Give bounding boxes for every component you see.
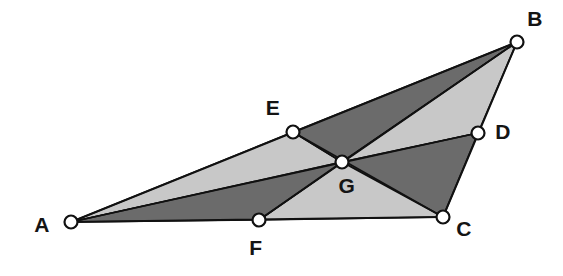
point-marker-a[interactable] (65, 216, 78, 229)
point-label-f: F (249, 237, 262, 258)
point-label-e: E (266, 97, 281, 118)
point-marker-f[interactable] (253, 214, 266, 227)
point-label-a: A (34, 214, 50, 235)
point-marker-e[interactable] (287, 126, 300, 139)
point-label-g: G (339, 175, 356, 196)
point-marker-g[interactable] (336, 156, 349, 169)
point-label-b: B (527, 8, 543, 29)
point-marker-b[interactable] (511, 36, 524, 49)
point-marker-c[interactable] (437, 211, 450, 224)
point-label-c: C (456, 218, 472, 239)
point-marker-d[interactable] (472, 127, 485, 140)
geometry-figure: ABCDEFG (0, 0, 563, 276)
diagram-canvas (0, 0, 563, 276)
point-label-d: D (495, 121, 511, 142)
